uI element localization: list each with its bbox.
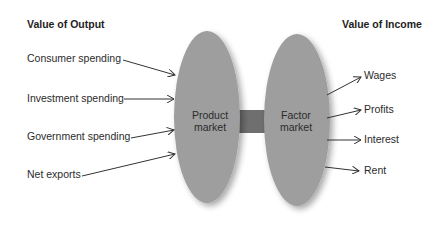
rent-label: Rent [364, 164, 386, 176]
net-exports-arrow [82, 154, 175, 176]
product-market-label-line1: Product [180, 109, 240, 121]
government-spending-arrow [131, 130, 174, 138]
rent-arrow [325, 167, 359, 171]
interest-label: Interest [364, 133, 399, 145]
wages-arrow [327, 77, 361, 95]
profits-arrow [327, 110, 361, 118]
value-of-output-heading: Value of Output [27, 18, 105, 30]
value-of-income-heading: Value of Income [342, 18, 422, 30]
government-spending-label: Government spending [27, 130, 130, 142]
product-market-label-line2: market [180, 121, 240, 133]
factor-market-label-line2: market [266, 121, 326, 133]
investment-spending-label: Investment spending [27, 92, 124, 104]
factor-market-label: Factor market [266, 109, 326, 133]
wages-label: Wages [364, 69, 396, 81]
net-exports-label: Net exports [27, 168, 81, 180]
consumer-spending-arrow [123, 60, 175, 75]
output-arrows [325, 77, 361, 171]
input-arrows [82, 60, 175, 176]
circular-flow-diagram: Value of Output Value of Income Consumer… [0, 0, 443, 230]
consumer-spending-label: Consumer spending [27, 52, 121, 64]
profits-label: Profits [364, 103, 394, 115]
product-market-label: Product market [180, 109, 240, 133]
factor-market-label-line1: Factor [266, 109, 326, 121]
